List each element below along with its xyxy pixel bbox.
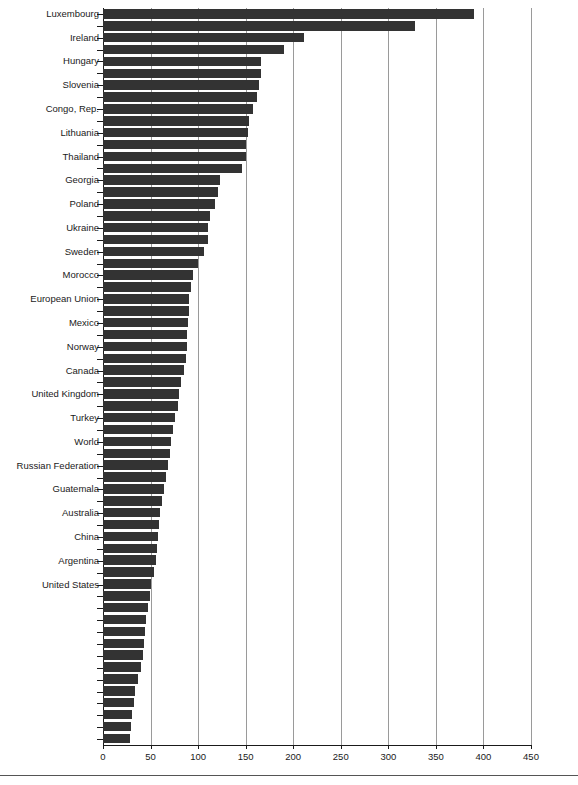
bar xyxy=(103,437,171,446)
x-tick xyxy=(436,745,437,749)
bar xyxy=(103,57,261,66)
y-tick xyxy=(97,549,103,550)
bar-row xyxy=(103,732,573,744)
bar-row xyxy=(103,341,573,353)
y-tick xyxy=(97,311,103,312)
bar-row xyxy=(103,436,573,448)
bar xyxy=(103,140,246,149)
bar-row xyxy=(103,305,573,317)
y-axis-label: Lithuania xyxy=(6,128,99,138)
y-tick xyxy=(97,371,103,372)
bar xyxy=(103,342,187,351)
x-tick xyxy=(388,745,389,749)
y-tick xyxy=(97,85,103,86)
bar-row xyxy=(103,198,573,210)
bar xyxy=(103,579,151,588)
y-tick xyxy=(97,573,103,574)
y-tick xyxy=(97,442,103,443)
bar xyxy=(103,639,144,648)
bar xyxy=(103,45,284,54)
bar-row xyxy=(103,44,573,56)
y-tick xyxy=(97,454,103,455)
y-tick xyxy=(97,157,103,158)
y-tick xyxy=(97,537,103,538)
x-axis-label: 0 xyxy=(100,751,105,762)
y-axis-label: World xyxy=(6,437,99,447)
bar-row xyxy=(103,412,573,424)
y-tick xyxy=(97,703,103,704)
x-axis-label: 400 xyxy=(476,751,492,762)
bar xyxy=(103,306,189,315)
x-tick xyxy=(341,745,342,749)
y-tick xyxy=(97,287,103,288)
y-tick xyxy=(97,513,103,514)
bar xyxy=(103,425,173,434)
y-axis-label: Guatemala xyxy=(6,484,99,494)
y-tick xyxy=(97,715,103,716)
y-tick xyxy=(97,608,103,609)
bar xyxy=(103,627,145,636)
bar-row xyxy=(103,661,573,673)
bar xyxy=(103,247,204,256)
bar-row xyxy=(103,162,573,174)
bar-row xyxy=(103,685,573,697)
x-axis-label: 150 xyxy=(238,751,254,762)
y-tick xyxy=(97,50,103,51)
y-axis-label: Ukraine xyxy=(6,223,99,233)
bar xyxy=(103,318,188,327)
y-axis-label: Australia xyxy=(6,508,99,518)
bar xyxy=(103,152,246,161)
y-axis-label: Congo, Rep. xyxy=(6,104,99,114)
y-tick xyxy=(97,692,103,693)
bar xyxy=(103,199,215,208)
bar xyxy=(103,650,143,659)
y-tick xyxy=(97,335,103,336)
y-axis-label: Russian Federation xyxy=(6,461,99,471)
y-tick xyxy=(97,275,103,276)
y-axis-label: Hungary xyxy=(6,56,99,66)
bar-row xyxy=(103,697,573,709)
bar xyxy=(103,294,189,303)
bar-row xyxy=(103,721,573,733)
bar xyxy=(103,69,261,78)
y-axis-label: Luxembourg xyxy=(6,9,99,19)
y-tick xyxy=(97,739,103,740)
bar xyxy=(103,603,148,612)
bar-row xyxy=(103,32,573,44)
x-axis-label: 450 xyxy=(523,751,539,762)
y-tick xyxy=(97,347,103,348)
bar xyxy=(103,686,135,695)
y-tick xyxy=(97,180,103,181)
y-axis-label: United Kingdom xyxy=(6,389,99,399)
bar xyxy=(103,164,242,173)
bar-row xyxy=(103,174,573,186)
bar-row xyxy=(103,8,573,20)
y-tick xyxy=(97,38,103,39)
bar xyxy=(103,365,184,374)
bar-row xyxy=(103,234,573,246)
bar xyxy=(103,449,170,458)
bar xyxy=(103,496,162,505)
bar xyxy=(103,508,160,517)
bar-row xyxy=(103,578,573,590)
bar-row xyxy=(103,649,573,661)
bar xyxy=(103,259,198,268)
x-axis-label: 200 xyxy=(285,751,301,762)
bottom-divider xyxy=(0,775,578,776)
bar xyxy=(103,591,150,600)
y-tick xyxy=(97,121,103,122)
y-tick xyxy=(97,216,103,217)
y-axis-label: European Union xyxy=(6,294,99,304)
y-tick xyxy=(97,264,103,265)
y-tick xyxy=(97,561,103,562)
bar-row xyxy=(103,79,573,91)
bar-row xyxy=(103,56,573,68)
y-tick xyxy=(97,418,103,419)
y-tick xyxy=(97,252,103,253)
bar xyxy=(103,710,132,719)
bar xyxy=(103,567,154,576)
x-axis-label: 50 xyxy=(145,751,156,762)
y-axis-label: Georgia xyxy=(6,175,99,185)
bar xyxy=(103,544,157,553)
y-tick xyxy=(97,109,103,110)
